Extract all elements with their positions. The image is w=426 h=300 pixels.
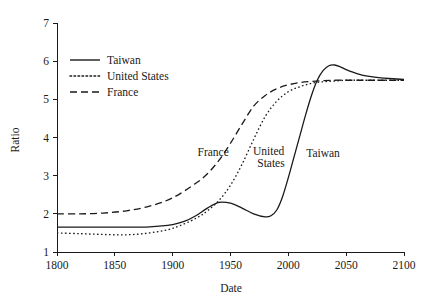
chart-legend: TaiwanUnited StatesFrance [70,54,169,98]
annotation-france: France [198,146,229,158]
x-tick-label: 2000 [277,259,300,271]
plot-axes: 1234567 1800185019001950200020502100 [43,17,416,271]
ratio-line-chart: 1234567 1800185019001950200020502100 Fra… [0,0,426,300]
annotation-united: United [253,145,285,157]
x-tick-label: 2100 [393,259,416,271]
x-tick-label: 1850 [103,259,126,271]
x-tick-label: 1950 [219,259,242,271]
legend-label-united-states: United States [107,70,169,82]
x-tick-label: 2050 [335,259,358,271]
y-tick-label: 1 [43,246,49,258]
y-tick-label: 7 [43,17,49,29]
series-line-united-states [57,80,404,235]
chart-figure: 1234567 1800185019001950200020502100 Fra… [0,0,426,300]
y-axis-title: Ratio [9,127,21,152]
y-tick-label: 4 [43,132,49,144]
x-tick-label: 1900 [161,259,184,271]
legend-label-taiwan: Taiwan [107,54,141,66]
series-line-france [57,80,404,214]
series-annotations: FranceUnitedStatesTaiwan [198,145,341,170]
x-tick-label: 1800 [46,259,69,271]
y-axis-ticks: 1234567 [43,17,57,258]
y-tick-label: 5 [43,93,49,105]
y-tick-label: 3 [43,170,49,182]
x-axis-title: Date [220,282,242,294]
legend-label-france: France [107,86,138,98]
x-axis-ticks: 1800185019001950200020502100 [46,252,416,271]
y-tick-label: 2 [43,208,49,220]
y-tick-label: 6 [43,55,49,67]
annotation-states: States [257,157,285,169]
annotation-taiwan: Taiwan [306,147,340,159]
